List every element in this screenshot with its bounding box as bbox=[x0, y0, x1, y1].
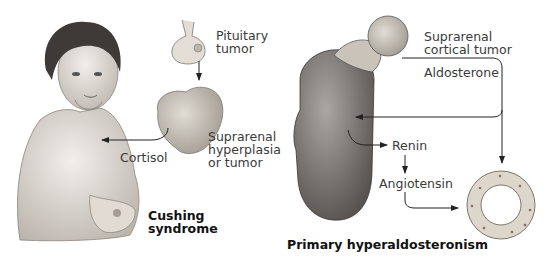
label-line: or tumor bbox=[208, 156, 281, 169]
primary-hyperaldosteronism-title: Primary hyperaldosteronism bbox=[287, 238, 488, 251]
label-aldosterone: Aldosterone bbox=[424, 66, 499, 79]
label-angiotensin: Angiotensin bbox=[379, 177, 453, 190]
pituitary-illustration bbox=[172, 20, 205, 64]
label-cortisol: Cortisol bbox=[120, 151, 168, 164]
title-line: syndrome bbox=[148, 222, 218, 235]
cushing-syndrome-title: Cushing syndrome bbox=[148, 209, 218, 235]
label-suprarenal-hyperplasia: Suprarenal hyperplasia or tumor bbox=[208, 130, 281, 169]
label-suprarenal-cortical-tumor: Suprarenal cortical tumor bbox=[424, 30, 512, 56]
label-pituitary-tumor: Pituitary tumor bbox=[216, 29, 268, 55]
label-line: cortical tumor bbox=[424, 43, 512, 56]
blood-vessel-cross-section-illustration bbox=[467, 171, 535, 239]
label-line: tumor bbox=[216, 42, 268, 55]
cushing-patient-illustration bbox=[17, 22, 138, 241]
label-renin: Renin bbox=[392, 139, 427, 152]
